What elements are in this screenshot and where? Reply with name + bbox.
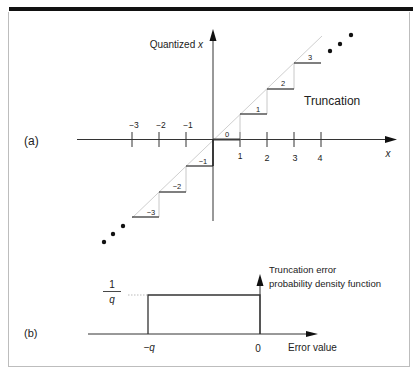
y-axis-arrow-icon bbox=[210, 29, 217, 41]
x-tick-label-1: 1 bbox=[238, 151, 243, 161]
error-axis-arrow-icon bbox=[306, 331, 318, 337]
step-label-neg3: −3 bbox=[147, 208, 156, 217]
step-label-3: 3 bbox=[308, 53, 312, 62]
error-value-label: Error value bbox=[288, 342, 337, 353]
x-left-label: −q bbox=[143, 342, 155, 353]
x-axis-label: x bbox=[385, 148, 392, 159]
pdf-rectangle bbox=[148, 295, 260, 334]
x-tick-label-4: 4 bbox=[317, 153, 322, 163]
step-label-2: 2 bbox=[281, 79, 285, 88]
x-tick-label-2: 2 bbox=[264, 153, 269, 163]
quantization-figure: −3 −2 −1 1 2 3 4 0 1 2 3 − bbox=[0, 0, 418, 374]
panel-b-label: (b) bbox=[24, 327, 37, 339]
x-tick-label-neg3: −3 bbox=[129, 120, 139, 130]
pdf-level-numerator: 1 bbox=[109, 279, 115, 290]
step-label-0: 0 bbox=[225, 130, 229, 139]
x-zero-label: 0 bbox=[255, 343, 261, 354]
panel-a-label: (a) bbox=[24, 134, 39, 148]
truncation-label: Truncation bbox=[304, 94, 360, 108]
y-axis-label: Quantized x bbox=[150, 39, 204, 50]
step-label-neg2: −2 bbox=[173, 182, 182, 191]
x-tick-label-neg1: −1 bbox=[183, 120, 193, 130]
x-tick-label-neg2: −2 bbox=[156, 120, 166, 130]
pdf-label-line2: probability density function bbox=[269, 278, 381, 289]
pdf-level-denominator: q bbox=[109, 294, 115, 305]
step-label-1: 1 bbox=[256, 105, 260, 114]
x-tick-label-3: 3 bbox=[292, 153, 297, 163]
pdf-label-line1: Truncation error bbox=[269, 264, 336, 275]
ellipsis-dots-lower bbox=[102, 224, 125, 244]
x-axis-arrow-icon bbox=[385, 136, 397, 143]
panel-b: 1 q Truncation error probability density… bbox=[24, 264, 381, 354]
ellipsis-dots-upper bbox=[328, 33, 353, 53]
step-label-neg1: −1 bbox=[199, 157, 208, 166]
panel-a: −3 −2 −1 1 2 3 4 0 1 2 3 − bbox=[24, 29, 397, 244]
pdf-axis-arrow-icon bbox=[257, 274, 264, 286]
